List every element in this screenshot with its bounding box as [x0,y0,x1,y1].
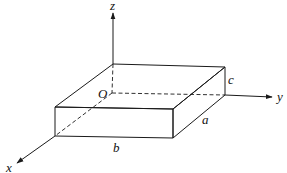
hidden-edges [55,64,225,136]
y-axis-label: y [275,89,283,104]
box-visible-edges [55,64,225,138]
x-axis [17,136,55,163]
x-axis-label: x [5,160,12,173]
dimension-a-label: a [202,112,209,127]
box-top-face [55,64,225,109]
z-axis-label: z [109,0,115,13]
dimension-c-label: c [228,72,234,87]
box-diagram: z y x O c a b [0,0,287,173]
hidden-edge-y [112,93,225,95]
y-axis [225,95,272,97]
dimension-b-label: b [113,140,120,155]
origin-label: O [98,86,108,101]
box-right-face [173,67,225,138]
hidden-edge-z [112,64,113,93]
